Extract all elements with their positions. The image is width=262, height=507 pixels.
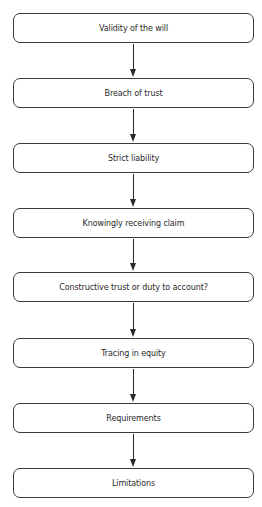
flow-node-strict-liability: Strict liability (13, 143, 254, 173)
flow-node-breach-of-trust: Breach of trust (13, 78, 254, 108)
flow-node-requirements: Requirements (13, 403, 254, 433)
connector-line (133, 44, 134, 69)
connector-line (133, 109, 134, 134)
arrow-down-icon (130, 329, 136, 337)
arrow-down-icon (130, 134, 136, 142)
arrow-down-icon (130, 394, 136, 402)
flow-node-limitations: Limitations (13, 468, 254, 498)
flow-node-knowingly-receiving-claim: Knowingly receiving claim (13, 208, 254, 238)
connector-line (133, 303, 134, 329)
flow-node-tracing-in-equity: Tracing in equity (13, 338, 254, 368)
arrow-down-icon (130, 69, 136, 77)
flowchart: Validity of the will Breach of trust Str… (0, 0, 262, 507)
connector-line (133, 369, 134, 394)
arrow-down-icon (130, 459, 136, 467)
connector-line (133, 174, 134, 199)
connector-line (133, 434, 134, 459)
flow-node-constructive-trust-or-duty-to-account: Constructive trust or duty to account? (13, 272, 254, 302)
flow-node-validity-of-the-will: Validity of the will (13, 13, 254, 43)
connector-line (133, 239, 134, 263)
arrow-down-icon (130, 263, 136, 271)
arrow-down-icon (130, 199, 136, 207)
